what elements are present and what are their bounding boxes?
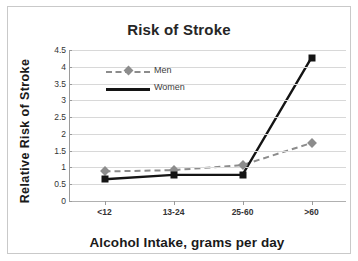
chart-frame: Risk of Stroke Relative Risk of Stroke 0… [7, 6, 351, 254]
y-tick-mark [69, 117, 72, 118]
gridline [70, 201, 346, 202]
y-tick-label: 0 [40, 196, 66, 206]
y-axis-ticks: 00.511.522.533.544.5 [38, 50, 66, 201]
legend-label-men: Men [154, 65, 172, 75]
y-tick-label: 2.5 [40, 112, 66, 122]
legend-item-men: Men [106, 64, 226, 81]
gridline [70, 167, 346, 168]
x-tick-mark [243, 201, 244, 205]
data-point-women-<12 [101, 176, 108, 183]
y-tick-label: 3.5 [40, 79, 66, 89]
x-axis-ticks: <1213-2425-60>60 [70, 207, 346, 221]
x-tick-mark [105, 201, 106, 205]
y-tick-label: 3 [40, 95, 66, 105]
y-tick-mark [69, 84, 72, 85]
x-tick-label: <12 [75, 207, 135, 217]
y-tick-label: 0.5 [40, 179, 66, 189]
square-marker-icon [101, 176, 108, 183]
y-tick-label: 1 [40, 162, 66, 172]
y-tick-mark [69, 50, 72, 51]
y-tick-mark [69, 134, 72, 135]
gridline [70, 100, 346, 101]
x-tick-label: 25-60 [213, 207, 273, 217]
data-point-women-25-60 [239, 171, 246, 178]
data-point-men-<12 [101, 168, 108, 175]
x-axis-label: Alcohol Intake, grams per day [8, 235, 358, 250]
gridline [70, 151, 346, 152]
y-tick-mark [69, 100, 72, 101]
chart-legend: Men Women [106, 64, 226, 98]
data-point-women->60 [308, 54, 315, 61]
gridline [70, 50, 346, 51]
square-marker-icon [308, 54, 315, 61]
y-tick-mark [69, 201, 72, 202]
y-tick-mark [69, 167, 72, 168]
y-tick-mark [69, 184, 72, 185]
data-point-men-25-60 [239, 162, 246, 169]
x-tick-mark [174, 201, 175, 205]
y-tick-label: 4.5 [40, 45, 66, 55]
y-tick-label: 1.5 [40, 146, 66, 156]
gridline [70, 184, 346, 185]
square-marker-icon [239, 171, 246, 178]
data-point-women-13-24 [170, 171, 177, 178]
y-tick-label: 4 [40, 62, 66, 72]
x-tick-label: >60 [282, 207, 342, 217]
x-tick-label: 13-24 [144, 207, 204, 217]
data-point-men->60 [308, 139, 315, 146]
legend-item-women: Women [106, 81, 226, 98]
legend-label-women: Women [154, 82, 185, 92]
chart-title: Risk of Stroke [8, 21, 350, 38]
y-tick-mark [69, 67, 72, 68]
legend-diamond-marker-icon [125, 67, 132, 74]
y-tick-mark [69, 151, 72, 152]
x-tick-mark [312, 201, 313, 205]
diamond-marker-icon [307, 138, 317, 148]
gridline [70, 134, 346, 135]
y-axis-label: Relative Risk of Stroke [18, 51, 32, 211]
legend-line-women-icon [106, 88, 150, 91]
diamond-marker-icon [238, 160, 248, 170]
gridline [70, 117, 346, 118]
square-marker-icon [170, 171, 177, 178]
y-tick-label: 2 [40, 129, 66, 139]
